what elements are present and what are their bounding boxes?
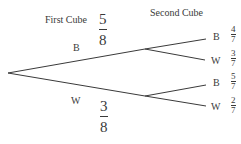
outcome-first-b: B (73, 43, 80, 53)
prob-wb: 5 7 (231, 72, 236, 91)
prob-bw-den: 7 (231, 59, 236, 68)
branch-b-b (145, 39, 206, 49)
prob-bb-num: 4 (231, 25, 236, 34)
prob-first-w-num: 3 (100, 99, 108, 114)
tree-branches (0, 0, 241, 144)
outcome-bw: W (211, 56, 220, 66)
prob-bw-num: 3 (231, 49, 236, 58)
outcome-bb: B (213, 32, 220, 42)
prob-first-w: 3 8 (100, 99, 108, 135)
branch-w-w (145, 96, 206, 106)
fraction-bar (99, 29, 107, 30)
outcome-wb: B (213, 78, 220, 88)
prob-first-b-num: 5 (99, 12, 107, 27)
prob-wb-num: 5 (231, 72, 236, 81)
prob-ww: 2 7 (231, 96, 236, 115)
branch-w-b (145, 85, 206, 96)
header-first-cube: First Cube (45, 15, 87, 25)
branch-first-w (8, 73, 145, 96)
header-second-cube: Second Cube (150, 8, 203, 18)
prob-wb-den: 7 (231, 82, 236, 91)
fraction-bar (100, 116, 108, 117)
prob-bb-den: 7 (231, 35, 236, 44)
prob-ww-den: 7 (231, 106, 236, 115)
outcome-ww: W (211, 102, 220, 112)
prob-first-b: 5 8 (99, 12, 107, 48)
prob-first-w-den: 8 (100, 120, 108, 135)
outcome-first-w: W (71, 96, 80, 106)
prob-bw: 3 7 (231, 49, 236, 68)
prob-bb: 4 7 (231, 25, 236, 44)
prob-first-b-den: 8 (99, 33, 107, 48)
branch-b-w (145, 49, 205, 60)
prob-ww-num: 2 (231, 96, 236, 105)
